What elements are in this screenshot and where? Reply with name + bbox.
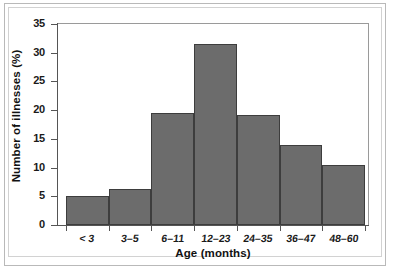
y-axis-tick-label: 10 xyxy=(33,161,45,173)
bar xyxy=(151,113,194,225)
y-axis-tick-label: 30 xyxy=(33,46,45,58)
bar xyxy=(280,145,323,225)
bar xyxy=(322,165,365,225)
x-axis-tick-label: 48–60 xyxy=(313,232,374,244)
x-axis-tick xyxy=(280,226,281,231)
x-axis-tick xyxy=(151,226,152,231)
x-axis-tick xyxy=(237,226,238,231)
x-axis-tick xyxy=(66,226,67,231)
x-axis-tick xyxy=(109,226,110,231)
y-axis-tick-label: 25 xyxy=(33,74,45,86)
x-axis-tick xyxy=(194,226,195,231)
y-axis-tick-label: 15 xyxy=(33,132,45,144)
y-axis-tick xyxy=(51,225,57,226)
y-axis-tick-label: 0 xyxy=(39,218,45,230)
y-axis-tick-label: 35 xyxy=(33,17,45,29)
bar xyxy=(109,189,152,225)
plot-right-rule xyxy=(368,23,369,226)
plot-area xyxy=(57,24,368,225)
figure: 05101520253035 < 33–56–1112–2324–3536–47… xyxy=(0,0,394,277)
bar xyxy=(194,44,237,225)
bar xyxy=(66,196,109,225)
x-axis-tick xyxy=(365,226,366,231)
x-axis-title: Age (months) xyxy=(57,247,369,259)
y-axis-tick-label: 20 xyxy=(33,103,45,115)
y-axis-tick-label: 5 xyxy=(39,189,45,201)
bar xyxy=(237,115,280,225)
y-axis-title: Number of illnesses (%) xyxy=(10,36,22,196)
x-axis-tick xyxy=(322,226,323,231)
